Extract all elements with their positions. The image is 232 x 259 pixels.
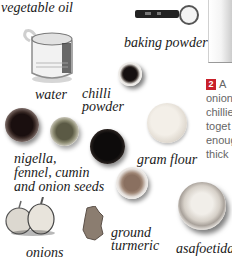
label-asafoetida: asafoetida [176, 242, 232, 255]
step-line: chillie [206, 106, 232, 118]
label-baking-powder: baking powder [124, 36, 208, 49]
step-line: thick [206, 148, 229, 160]
step-2-text: 2A onion chillie toget enoug thick [206, 77, 232, 161]
nigella-seeds-bowl-image [5, 108, 39, 142]
step-line: enoug [206, 134, 232, 146]
step-line: onion [206, 92, 232, 104]
turmeric-root-image [81, 206, 105, 242]
baking-powder-spoon-image [135, 4, 200, 28]
chilli-powder-bowl-image [118, 62, 142, 86]
gram-flour-bowl-image [147, 103, 187, 143]
label-gram-flour: gram flour [137, 153, 197, 166]
label-chilli-powder: chilli powder [82, 87, 124, 113]
label-seeds: nigella, fennel, cumin and onion seeds [14, 152, 104, 194]
label-vegetable-oil: vegetable oil [1, 1, 73, 14]
step-line: toget [206, 120, 230, 132]
water-jug-image [18, 27, 76, 85]
asafoetida-bowl-image [178, 182, 226, 230]
step-photo-panel [208, 0, 232, 63]
label-onions: onions [26, 246, 63, 259]
label-ground-turmeric: ground turmeric [111, 226, 159, 252]
label-water: water [35, 88, 67, 101]
step-number-badge: 2 [206, 79, 216, 90]
fennel-seeds-bowl-image [50, 117, 79, 146]
turmeric-bowl-image [116, 167, 148, 199]
onions-image [3, 197, 58, 237]
step-first-word: A [219, 78, 226, 90]
